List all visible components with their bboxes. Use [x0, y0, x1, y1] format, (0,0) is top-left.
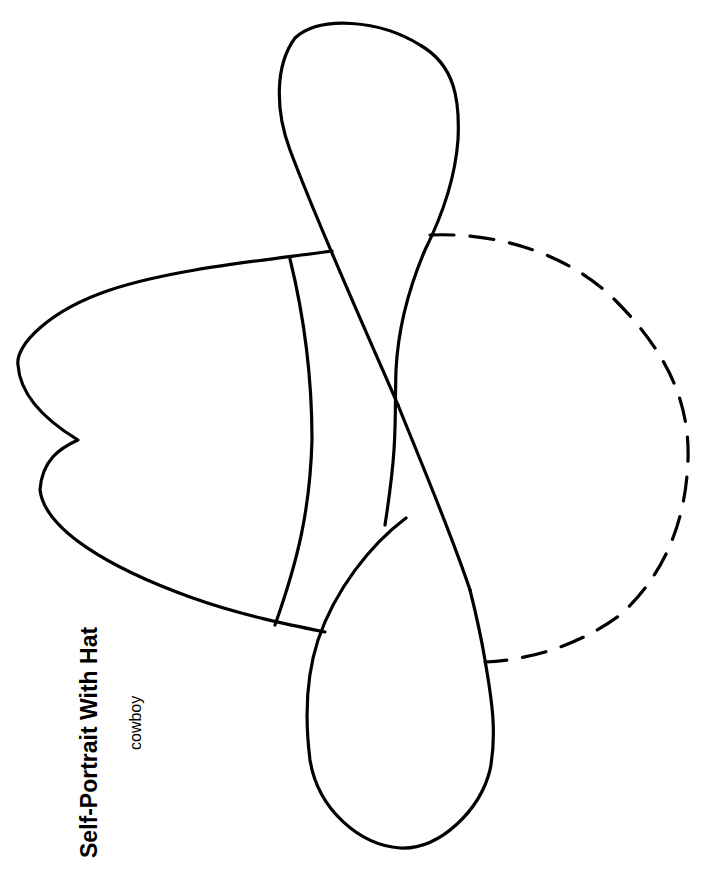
cowboy-hat-illustration [0, 0, 714, 874]
hat-band-line [275, 259, 312, 625]
hat-brim-diagonal [398, 405, 470, 590]
worksheet-subtitle: cowboy [128, 696, 144, 750]
worksheet-title: Self-Portrait With Hat [78, 627, 101, 858]
hat-brim-upper-lobe [279, 23, 458, 525]
face-dashed-outline [430, 235, 688, 662]
hat-brim-lower-lobe [307, 518, 493, 848]
hat-crown-outline [18, 251, 332, 632]
worksheet-page: Self-Portrait With Hat cowboy [0, 0, 714, 874]
